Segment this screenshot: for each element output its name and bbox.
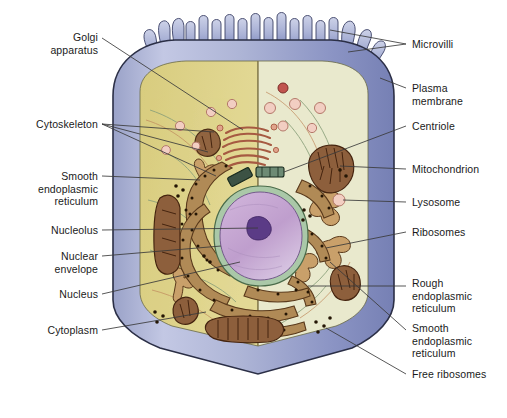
label-nuclear-envelope: Nuclear envelope xyxy=(34,250,98,275)
vesicle xyxy=(290,99,301,110)
mitochondrion xyxy=(309,145,354,193)
label-lysosome: Lysosome xyxy=(412,196,502,209)
vesicle xyxy=(227,99,236,108)
mitochondrion xyxy=(154,195,180,274)
vesicle xyxy=(278,121,288,131)
label-mitochondrion: Mitochondrion xyxy=(412,163,504,176)
vesicle xyxy=(265,103,276,114)
label-golgi-apparatus: Golgi apparatus xyxy=(38,31,98,56)
label-cytoskeleton: Cytoskeleton xyxy=(14,118,98,131)
label-free-ribosomes: Free ribosomes xyxy=(412,368,506,381)
label-smooth-endoplasmic-reticulum-right: Smooth endoplasmic reticulum xyxy=(412,322,500,360)
label-cytoplasm: Cytoplasm xyxy=(32,324,98,337)
label-nucleolus: Nucleolus xyxy=(36,224,98,237)
secretory-vesicle xyxy=(278,83,288,93)
vesicle xyxy=(307,123,316,132)
label-smooth-endoplasmic-reticulum-left: Smooth endoplasmic reticulum xyxy=(20,170,98,208)
centriole xyxy=(256,167,284,177)
mitochondrion xyxy=(173,297,198,324)
label-centriole: Centriole xyxy=(412,120,502,133)
label-nucleus: Nucleus xyxy=(44,288,98,301)
nucleus-group xyxy=(214,186,308,286)
cell-diagram-figure: Golgi apparatus Cytoskeleton Smooth endo… xyxy=(0,0,507,418)
label-rough-endoplasmic-reticulum: Rough endoplasmic reticulum xyxy=(412,277,500,315)
label-microvilli: Microvilli xyxy=(412,38,502,51)
mitochondrion xyxy=(330,266,360,301)
label-plasma-membrane: Plasma membrane xyxy=(412,82,502,107)
label-ribosomes: Ribosomes xyxy=(412,226,502,239)
vesicle xyxy=(315,103,326,114)
mitochondrion xyxy=(205,316,283,343)
